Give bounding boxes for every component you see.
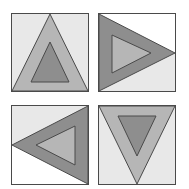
panel-top-left (11, 13, 89, 92)
triangle-right-icon (98, 13, 176, 92)
panel-bottom-right (98, 105, 176, 185)
triangle-left-icon (11, 105, 89, 185)
panel-top-right (98, 13, 176, 92)
triangle-up-icon (11, 13, 89, 92)
triangle-diagram (0, 0, 189, 189)
triangle-down-icon (98, 105, 176, 185)
panel-bottom-left (11, 105, 89, 185)
